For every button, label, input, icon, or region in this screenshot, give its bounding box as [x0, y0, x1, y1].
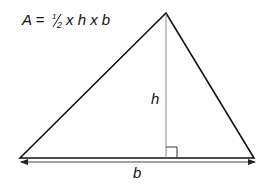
base-label: b — [133, 164, 141, 181]
height-label: h — [151, 90, 159, 107]
fraction-denominator: 2 — [56, 20, 62, 30]
svg-text:A =: A = — [21, 11, 45, 28]
right-angle-marker — [166, 147, 177, 158]
fraction-numerator: 1 — [52, 12, 56, 21]
triangle-area-diagram: A = 1 2 x h x b h b — [0, 0, 265, 186]
formula-suffix: x h x b — [65, 11, 110, 28]
area-formula: A = 1 2 x h x b — [21, 11, 110, 30]
formula-prefix: A = — [21, 11, 45, 28]
triangle-shape — [20, 13, 254, 158]
